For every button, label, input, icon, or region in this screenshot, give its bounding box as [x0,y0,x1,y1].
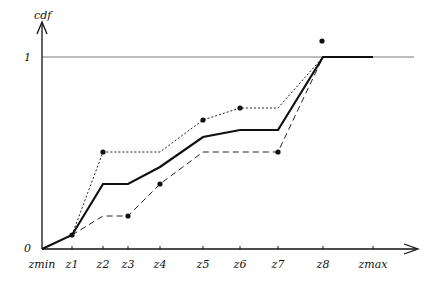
data-markers [69,38,324,237]
x-label-z8: z8 [316,258,330,271]
y-tick-1: 1 [24,51,31,64]
x-tick-labels: zmin z1 z2 z3 z4 z5 z6 z7 z8 zmax [28,258,389,271]
y-axis-label: cdf [34,9,53,22]
upper-bound-line [72,57,323,235]
cdf-chart: cdf 1 0 zmin z1 z2 z3 z4 z5 z6 z7 z8 zma… [0,0,438,281]
lower-bound-line [72,57,323,235]
cdf-line [42,57,373,249]
x-label-zmax: zmax [358,258,389,271]
x-label-z2: z2 [96,258,110,271]
x-label-z6: z6 [233,258,247,271]
x-label-z7: z7 [271,258,285,271]
marker-lower-z4 [157,181,162,186]
marker-upper-z2 [100,149,105,154]
marker-lower-z3 [125,213,130,218]
x-label-z3: z3 [121,258,135,271]
marker-upper-z5 [200,117,205,122]
x-label-zmin: zmin [28,258,56,271]
marker-z8-above [319,38,324,43]
x-label-z4: z4 [153,258,167,271]
y-tick-0: 0 [24,242,31,255]
marker-lower-z7 [275,149,280,154]
x-label-z1: z1 [65,258,79,271]
x-label-z5: z5 [196,258,210,271]
marker-z1 [69,232,74,237]
marker-upper-z6 [237,105,242,110]
